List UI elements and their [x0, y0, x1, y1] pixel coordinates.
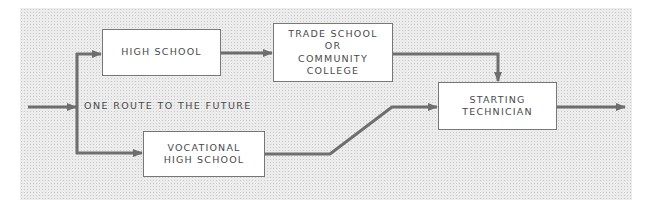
node-label: TECHNICIAN: [462, 106, 533, 119]
node-vocational-high-school: VOCATIONAL HIGH SCHOOL: [143, 131, 265, 177]
node-label: OR: [325, 40, 341, 53]
node-label: TRADE SCHOOL: [288, 28, 377, 41]
node-label: COLLEGE: [307, 65, 359, 78]
arrow-trade-to-starting: [392, 54, 498, 81]
node-label: HIGH SCHOOL: [121, 46, 202, 59]
node-starting-technician: STARTING TECHNICIAN: [438, 82, 557, 130]
node-label: VOCATIONAL: [167, 142, 240, 155]
arrow-vocational-to-starting: [264, 107, 437, 154]
flowchart-diagram: HIGH SCHOOL TRADE SCHOOL OR COMMUNITY CO…: [0, 0, 652, 211]
node-label: HIGH SCHOOL: [164, 154, 245, 167]
node-label: COMMUNITY: [298, 53, 368, 66]
node-high-school: HIGH SCHOOL: [102, 29, 221, 76]
node-label: STARTING: [469, 94, 525, 107]
node-trade-school: TRADE SCHOOL OR COMMUNITY COLLEGE: [273, 23, 393, 82]
route-caption: ONE ROUTE TO THE FUTURE: [84, 100, 252, 111]
